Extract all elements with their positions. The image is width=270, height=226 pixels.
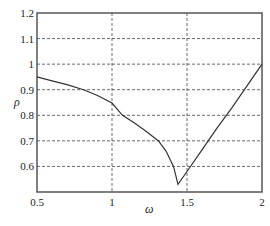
y-tick-label: 0.6 — [20, 160, 34, 172]
y-tick-labels: 0.60.70.80.911.11.2 — [20, 7, 34, 172]
x-tick-label: 1 — [109, 196, 115, 208]
x-axis-label: ω — [145, 202, 153, 216]
y-tick-label: 1 — [29, 58, 35, 70]
x-tick-label: 1.5 — [180, 196, 194, 208]
y-axis-label: ρ — [13, 95, 20, 109]
y-tick-label: 0.9 — [20, 84, 34, 96]
plot-frame — [37, 13, 262, 192]
grid-lines — [37, 13, 262, 192]
y-tick-label: 1.2 — [20, 7, 34, 19]
chart: 0.60.70.80.911.11.2 0.511.52 ρ ω — [0, 0, 270, 226]
y-tick-label: 1.1 — [20, 33, 34, 45]
x-tick-label: 0.5 — [30, 196, 44, 208]
x-tick-label: 2 — [259, 196, 265, 208]
y-tick-label: 0.7 — [20, 135, 34, 147]
y-tick-label: 0.8 — [20, 109, 34, 121]
